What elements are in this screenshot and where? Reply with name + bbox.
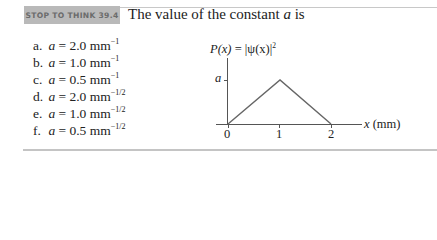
- x-tick-label-0: 0: [224, 127, 230, 142]
- xlabel-unit: (mm): [370, 117, 401, 131]
- probability-curve: [228, 80, 331, 124]
- x-tick-label-2: 2: [328, 127, 334, 142]
- graph-x-axis-label: x (mm): [364, 117, 400, 132]
- bottom-rule: [23, 149, 437, 151]
- x-tick-label-1: 1: [276, 127, 282, 142]
- y-tick-label-a: a: [215, 71, 221, 86]
